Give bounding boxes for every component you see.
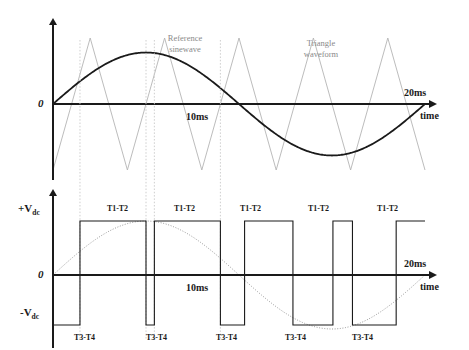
bottom-chart-zero-label: 0 <box>38 269 44 280</box>
positive-rail-sub: dc <box>32 208 40 217</box>
negative-rail-main: -V <box>20 306 32 318</box>
pulse-label-t3t4-4: T3-T4 <box>352 334 373 342</box>
pulse-label-t1t2-2: T1-T2 <box>240 205 261 213</box>
top-chart-x-axis-arrow <box>429 100 437 108</box>
triangle-waveform-annotation: Triangle waveform <box>292 38 350 59</box>
bottom-chart-y-axis-arrow <box>49 189 57 196</box>
top-chart-midpoint-label: 10ms <box>186 112 208 122</box>
triangle-waveform-annotation-line2: waveform <box>292 49 350 60</box>
negative-rail-label: -Vdc <box>20 307 39 321</box>
bottom-chart-time-axis-label: time <box>420 282 439 292</box>
bottom-chart-midpoint-label: 10ms <box>186 283 208 293</box>
negative-rail-sub: dc <box>32 312 40 321</box>
triangle-waveform-annotation-line1: Triangle <box>292 38 350 49</box>
top-chart-endpoint-label: 20ms <box>404 88 426 98</box>
positive-rail-main: +V <box>18 202 32 214</box>
pwm-output-waveform <box>53 221 425 325</box>
top-chart-y-axis-arrow <box>49 18 57 25</box>
pulse-label-t1t2-1: T1-T2 <box>174 205 195 213</box>
pulse-label-t3t4-1: T3-T4 <box>146 334 167 342</box>
pulse-label-t1t2-4: T1-T2 <box>377 205 398 213</box>
spwm-figure: 0 Reference sinewave Triangle waveform 1… <box>0 0 469 350</box>
pulse-label-t3t4-3: T3-T4 <box>285 334 306 342</box>
top-chart-time-axis-label: time <box>420 111 439 121</box>
waveform-canvas <box>0 0 469 350</box>
positive-rail-label: +Vdc <box>18 203 40 217</box>
reference-sinewave-annotation-line2: sinewave <box>154 44 216 55</box>
bottom-chart-x-axis-arrow <box>429 271 437 279</box>
pulse-label-t1t2-0: T1-T2 <box>107 205 128 213</box>
pulse-label-t3t4-2: T3-T4 <box>216 334 237 342</box>
top-chart-zero-label: 0 <box>38 98 44 109</box>
reference-sinewave-annotation-line1: Reference <box>154 33 216 44</box>
pulse-label-t3t4-0: T3-T4 <box>74 334 95 342</box>
reference-sinewave-annotation: Reference sinewave <box>154 33 216 54</box>
pulse-label-t1t2-3: T1-T2 <box>308 205 329 213</box>
bottom-chart-endpoint-label: 20ms <box>404 259 426 269</box>
